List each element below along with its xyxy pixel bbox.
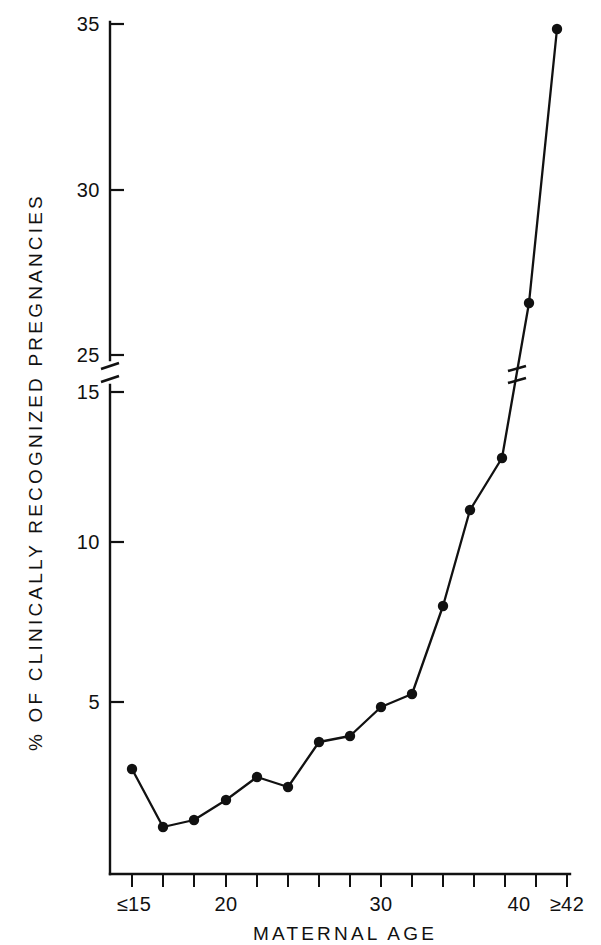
data-point xyxy=(376,702,386,712)
y-axis-label: % OF CLINICALLY RECOGNIZED PREGNANCIES xyxy=(25,193,46,751)
x-axis-label: MATERNAL AGE xyxy=(253,923,437,944)
data-point xyxy=(283,782,293,792)
x-tick-label-42: ≥42 xyxy=(550,893,585,915)
data-point xyxy=(438,601,448,611)
y-tick-label-15: 15 xyxy=(77,381,100,403)
data-point xyxy=(497,453,507,463)
data-point xyxy=(524,298,534,308)
y-tick-label-25: 25 xyxy=(77,344,100,366)
x-tick-label-15: ≤15 xyxy=(117,893,152,915)
data-point xyxy=(127,764,137,774)
chart-figure: % OF CLINICALLY RECOGNIZED PREGNANCIES 3… xyxy=(0,0,601,945)
axis-break-mark-lower xyxy=(101,376,119,382)
data-point xyxy=(465,505,475,515)
y-tick-label-30: 30 xyxy=(77,179,100,201)
data-point xyxy=(552,24,562,34)
x-tick-group: ≤15 20 30 40 ≥42 xyxy=(117,874,585,915)
axis-break-mark-upper xyxy=(101,363,119,369)
x-tick-label-40: 40 xyxy=(507,893,530,915)
x-tick-label-20: 20 xyxy=(214,893,237,915)
y-tick-label-35: 35 xyxy=(77,13,100,35)
data-point xyxy=(158,822,168,832)
data-point xyxy=(314,737,324,747)
y-tick-label-10: 10 xyxy=(77,531,100,553)
series-break-mark-lower xyxy=(508,378,526,383)
data-point xyxy=(221,795,231,805)
data-point xyxy=(345,731,355,741)
data-series-line xyxy=(132,29,557,827)
y-tick-label-5: 5 xyxy=(88,691,100,713)
x-tick-label-30: 30 xyxy=(369,893,392,915)
data-point xyxy=(407,689,417,699)
data-point-group xyxy=(127,24,562,832)
line-chart-svg: % OF CLINICALLY RECOGNIZED PREGNANCIES 3… xyxy=(0,0,601,945)
data-point xyxy=(189,815,199,825)
data-point xyxy=(252,772,262,782)
